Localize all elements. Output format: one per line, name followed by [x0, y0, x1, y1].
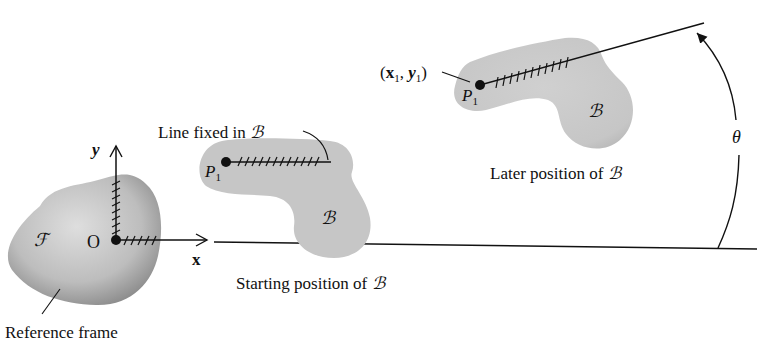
starting-body-symbol: ℬ [321, 207, 337, 228]
fixed-line-label: Line fixed in ℬ [158, 122, 265, 142]
later-body: P1 ℬ (x1, y1) Later position of ℬ [380, 23, 704, 183]
origin-point [111, 235, 121, 245]
y-axis-label: y [90, 140, 100, 159]
later-point-coordinates: (x1, y1) [380, 63, 427, 84]
later-body-shape [454, 38, 633, 149]
starting-position-caption: Starting position of ℬ [236, 273, 387, 293]
reference-frame: ℱ O y x Reference frame [5, 140, 207, 342]
angle-arc-lower [718, 155, 739, 248]
rotation-angle: θ [697, 33, 741, 248]
starting-body-shape [199, 138, 370, 258]
reference-frame-caption: Reference frame [5, 323, 118, 342]
later-point-p1 [475, 80, 485, 90]
angle-theta-label: θ [732, 127, 741, 147]
baseline [214, 242, 757, 249]
starting-point-p1 [221, 157, 231, 167]
x-axis-label: x [192, 250, 201, 269]
later-body-symbol: ℬ [588, 100, 604, 121]
angle-arc-upper [697, 33, 736, 120]
rigid-body-rotation-diagram: ℱ O y x Reference frame [0, 0, 767, 355]
later-position-caption: Later position of ℬ [490, 163, 623, 183]
origin-label: O [87, 232, 100, 252]
